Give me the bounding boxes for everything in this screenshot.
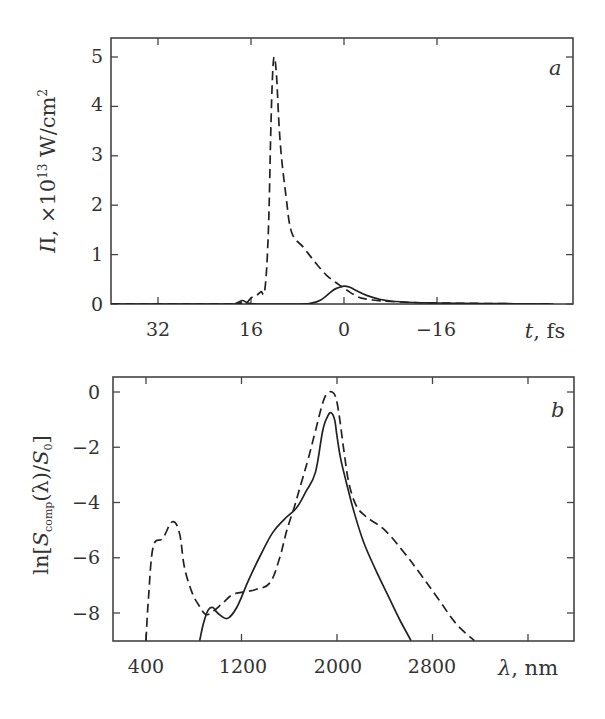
series-solid-line [112, 286, 554, 304]
b-ytick-m4: −4 [72, 491, 100, 513]
b-ytick-m6: −6 [72, 546, 100, 568]
panel-b-ticks [113, 377, 574, 641]
a-xtick-0: 0 [338, 318, 350, 340]
series-solid-line [200, 413, 411, 641]
a-xtick-32: 32 [146, 318, 170, 340]
a-ytick-2: 2 [91, 193, 103, 215]
b-ytick-0: 0 [88, 381, 100, 403]
a-ytick-1: 1 [91, 243, 103, 265]
panel-b-curves [146, 392, 474, 641]
panel-a-curves [112, 57, 554, 304]
b-xlabel: λ, nm [497, 656, 558, 680]
b-xtick-2000: 2000 [314, 655, 362, 677]
a-xtick-16: 16 [239, 318, 263, 340]
a-ytick-0: 0 [91, 293, 103, 315]
series-dashed-line [146, 392, 474, 641]
panel-b-tag: b [551, 398, 564, 422]
a-ytick-3: 3 [91, 143, 103, 165]
b-xtick-400: 400 [128, 655, 164, 677]
a-ytick-5: 5 [91, 45, 103, 67]
panel-b: 0 −2 −4 −6 −8 400 1200 2000 2800 λ, nm l… [29, 377, 574, 680]
b-ytick-m2: −2 [72, 436, 100, 458]
figure: 0 1 2 3 4 5 32 16 0 −16 t, fs II, ×1013 … [0, 0, 605, 719]
panel-b-frame [113, 377, 574, 641]
panel-a: 0 1 2 3 4 5 32 16 0 −16 t, fs II, ×1013 … [36, 38, 573, 343]
a-ytick-4: 4 [91, 93, 103, 115]
b-xtick-2800: 2800 [408, 655, 456, 677]
panel-a-frame [111, 38, 573, 304]
panel-a-tag: a [549, 56, 562, 80]
a-xtick-m16: −16 [416, 318, 456, 340]
b-ylabel: ln[Scomp(λ)/S0] [29, 435, 55, 574]
a-ylabel: II, ×1013 W/cm2 [36, 89, 60, 254]
a-xlabel: t, fs [525, 319, 565, 343]
series-dashed-line [112, 57, 554, 304]
b-ytick-m8: −8 [72, 602, 100, 624]
panel-a-ticks [111, 38, 573, 304]
b-xtick-1200: 1200 [219, 655, 267, 677]
